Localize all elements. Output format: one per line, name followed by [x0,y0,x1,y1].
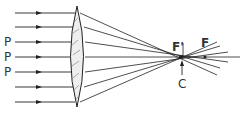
c-arrow [180,60,184,75]
label-c: C [178,78,186,90]
label-p1: P [4,36,11,48]
incident-rays [15,13,75,102]
label-p3: P [4,66,11,78]
refracted-rays [80,13,240,102]
label-p2: P [4,51,11,63]
lens-diagram [0,0,244,114]
arrowheads [36,11,42,104]
lens [71,6,84,107]
label-f: F [201,37,209,49]
label-f-prime: F' [172,41,184,53]
